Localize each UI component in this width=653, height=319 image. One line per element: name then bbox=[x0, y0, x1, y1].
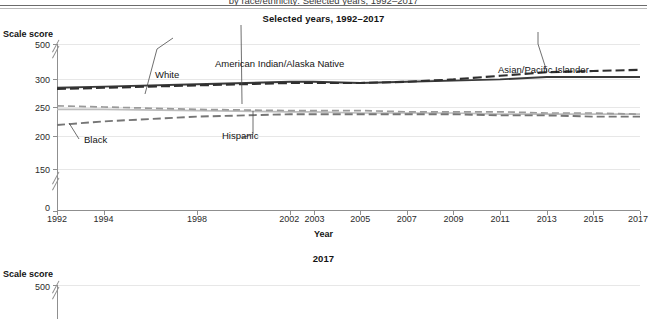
bottom-y-tick-500: 500 bbox=[10, 282, 50, 292]
bottom-chart-plot-area bbox=[57, 285, 640, 319]
x-tick-label-2011: 2011 bbox=[480, 214, 520, 224]
bottom-y-axis-break bbox=[52, 293, 65, 306]
x-tick-label-1998: 1998 bbox=[177, 214, 217, 224]
top-chart-x-axis-label: Year bbox=[0, 229, 647, 239]
series-label-hispanic: Hispanic bbox=[222, 130, 258, 141]
series-label-american-indian-alaska-native: American Indian/Alaska Native bbox=[215, 58, 344, 69]
y-tick-300: 300 bbox=[10, 75, 50, 85]
x-tick-label-2009: 2009 bbox=[433, 214, 473, 224]
header-rule-secondary bbox=[0, 8, 647, 9]
x-tick-label-2017: 2017 bbox=[618, 214, 653, 224]
x-tick-label-2003: 2003 bbox=[295, 214, 335, 224]
series-label-black: Black bbox=[84, 134, 107, 145]
top-chart-title: Selected years, 1992–2017 bbox=[0, 13, 647, 24]
bottom-chart-title: 2017 bbox=[0, 253, 647, 264]
y-tick-0: 0 bbox=[10, 203, 50, 213]
x-tick-label-2005: 2005 bbox=[340, 214, 380, 224]
x-tick-label-2013: 2013 bbox=[527, 214, 567, 224]
x-tick-label-2007: 2007 bbox=[387, 214, 427, 224]
x-tick-label-2015: 2015 bbox=[573, 214, 613, 224]
series-label-asian-pacific-islander: Asian/Pacific Islander bbox=[498, 64, 589, 75]
x-tick-label-1992: 1992 bbox=[37, 214, 77, 224]
y-tick-250: 250 bbox=[10, 103, 50, 113]
top-chart-y-axis-label: Scale score bbox=[3, 29, 53, 39]
bottom-gridline-500 bbox=[57, 285, 640, 286]
y-tick-150: 150 bbox=[10, 165, 50, 175]
bottom-chart-y-axis-label: Scale score bbox=[3, 269, 53, 279]
series-label-white: White bbox=[155, 69, 179, 80]
leader-white bbox=[145, 38, 173, 94]
leader-black bbox=[69, 123, 79, 139]
y-tick-200: 200 bbox=[10, 132, 50, 142]
y-tick-500: 500 bbox=[10, 40, 50, 50]
header-rule bbox=[0, 5, 647, 6]
x-tick-label-1994: 1994 bbox=[84, 214, 124, 224]
